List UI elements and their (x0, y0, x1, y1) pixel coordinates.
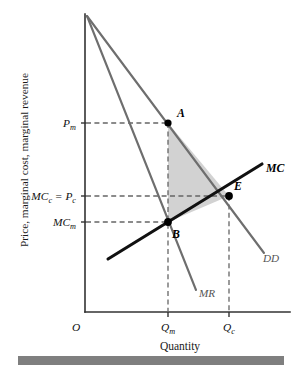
curve-label-dd: DD (262, 252, 279, 264)
point-label-e: E (233, 179, 242, 193)
y-tick-label-mcm: MCm (52, 216, 76, 231)
point-label-a: A (176, 106, 185, 120)
curve-label-mr: MR (198, 287, 215, 299)
origin-label: O (72, 321, 80, 333)
y-axis-title: Price, marginal cost, marginal revenue (18, 73, 30, 247)
point-b-dot (164, 218, 172, 226)
monopoly-deadweight-loss-chart: A B E MC DD MR Pm MCc = Pc MCm Qm Qc O Q… (0, 0, 298, 370)
point-e-dot (225, 192, 233, 200)
y-tick-label-pm: Pm (62, 117, 76, 132)
economics-diagram-figure: A B E MC DD MR Pm MCc = Pc MCm Qm Qc O Q… (0, 0, 298, 370)
x-tick-label-qc: Qc (223, 321, 235, 336)
y-tick-label-mcc-pc: MCc = Pc (30, 190, 76, 205)
point-label-b: B (171, 227, 180, 241)
footer-divider-bar (18, 356, 284, 365)
x-tick-label-qm: Qm (161, 321, 175, 336)
x-axis-title: Quantity (160, 340, 200, 353)
point-a-dot (164, 119, 171, 126)
curve-label-mc: MC (265, 161, 284, 175)
